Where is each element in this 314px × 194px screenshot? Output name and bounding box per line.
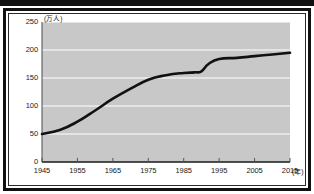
x-tick-label: 1945 (26, 166, 58, 175)
x-tick-label: 2005 (239, 166, 271, 175)
y-tick-label: 0 (8, 157, 38, 166)
y-tick-label: 250 (8, 17, 38, 26)
y-tick-label: 150 (8, 73, 38, 82)
x-tick-label: 1995 (203, 166, 235, 175)
y-tick-label: 200 (8, 45, 38, 54)
x-tick-label: 2015 (274, 166, 306, 175)
x-tick-label: 1975 (132, 166, 164, 175)
chart-figure: (万人) (年) 0501001502002501945195519651975… (0, 0, 314, 194)
y-tick-label: 100 (8, 101, 38, 110)
x-tick-label: 1985 (168, 166, 200, 175)
y-axis-unit-label: (万人) (44, 13, 62, 23)
y-tick-label: 50 (8, 129, 38, 138)
x-tick-label: 1965 (97, 166, 129, 175)
x-tick-label: 1955 (61, 166, 93, 175)
chart-plot-svg (0, 0, 314, 194)
plot-background (42, 22, 290, 162)
